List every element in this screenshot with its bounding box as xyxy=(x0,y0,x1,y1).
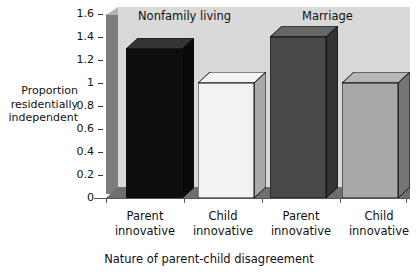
y-tick-mark xyxy=(98,106,103,107)
y-tick-mark xyxy=(98,60,103,61)
x-category-label-line: innovative xyxy=(333,224,418,239)
y-tick-label: 0.4 xyxy=(68,146,94,157)
y-tick-label: 0.2 xyxy=(68,169,94,180)
y-tick-label: 1.4 xyxy=(68,31,94,42)
y-tick-label: 0 xyxy=(68,192,94,203)
y-tick-label: 0.6 xyxy=(68,123,94,134)
y-tick-mark xyxy=(98,129,103,130)
x-category-label: Childinnovative xyxy=(333,209,418,239)
x-category-label-line: Child xyxy=(333,209,418,224)
y-tick-mark xyxy=(98,37,103,38)
chart-figure: Proportion residentially independent 1.6… xyxy=(0,0,418,272)
y-tick-mark xyxy=(98,14,103,15)
plot-left-wall-top xyxy=(106,7,118,15)
x-axis-line xyxy=(94,198,410,199)
x-tick-mark xyxy=(340,198,341,203)
y-tick-label: 1.2 xyxy=(68,54,94,65)
x-tick-mark xyxy=(106,198,107,203)
bar xyxy=(270,26,338,198)
y-axis-label-line-2: residentially xyxy=(2,98,78,112)
y-tick-mark xyxy=(98,175,103,176)
y-axis-label: Proportion residentially independent xyxy=(2,84,78,125)
plot-left-wall xyxy=(106,14,118,194)
x-tick-mark xyxy=(406,198,407,203)
y-axis-label-line-1: Proportion xyxy=(2,84,78,98)
bar xyxy=(126,38,194,199)
y-tick-mark xyxy=(98,152,103,153)
x-tick-mark xyxy=(262,198,263,203)
x-axis-title: Nature of parent-child disagreement xyxy=(0,252,418,266)
group-header-marriage: Marriage xyxy=(302,9,353,23)
y-tick-label: 1 xyxy=(68,77,94,88)
y-axis-label-line-3: independent xyxy=(2,111,78,125)
bar xyxy=(342,72,410,198)
bar xyxy=(198,72,266,198)
y-tick-label: 1.6 xyxy=(68,8,94,19)
y-tick-mark xyxy=(98,83,103,84)
x-tick-mark xyxy=(184,198,185,203)
y-tick-label: 0.8 xyxy=(68,100,94,111)
plot-area xyxy=(106,7,410,198)
group-header-nonfamily-living: Nonfamily living xyxy=(138,9,231,23)
